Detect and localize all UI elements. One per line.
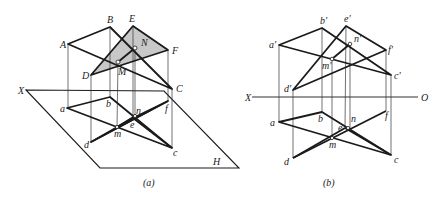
label-X-a: X: [17, 85, 25, 96]
label-N: N: [140, 37, 149, 48]
label-e-prime: e': [344, 13, 351, 24]
label-B: B: [107, 14, 113, 25]
label-a: a: [60, 103, 65, 114]
label-c-prime: c': [394, 70, 401, 81]
caption-a: (a): [143, 177, 155, 189]
label-X-b: X: [244, 92, 252, 103]
label-c-top: c: [394, 154, 399, 165]
figure-b: X O a' b' e' n' f' m' c' d' a b e n f m …: [244, 13, 428, 189]
figure-a: A B E N F M D C X a b n e f m d c H (a): [17, 13, 239, 189]
point-n-front: [348, 42, 352, 46]
label-d: d: [84, 139, 90, 150]
diagram-canvas: A B E N F M D C X a b n e f m d c H (a): [0, 0, 438, 201]
label-d-top: d: [284, 156, 290, 167]
segment-ec-top: [345, 128, 391, 155]
label-d-prime: d': [284, 83, 292, 94]
label-a-top: a: [270, 117, 275, 128]
label-f-top: f: [385, 110, 389, 121]
triangle-def-front: [293, 26, 386, 90]
label-D: D: [81, 70, 90, 81]
label-m-top: m: [329, 139, 336, 150]
label-f: f: [165, 103, 169, 114]
caption-b: (b): [323, 177, 335, 189]
label-b-top: b: [318, 113, 323, 124]
label-A: A: [59, 39, 67, 50]
label-O-b: O: [421, 92, 428, 103]
label-m: m: [114, 128, 121, 139]
label-c: c: [173, 147, 178, 158]
label-f-prime: f': [388, 44, 394, 55]
label-n: n: [136, 105, 141, 116]
point-m-space: [116, 60, 120, 64]
label-C: C: [176, 83, 183, 94]
label-e: e: [130, 119, 135, 130]
label-E: E: [128, 13, 135, 24]
point-n-space: [133, 46, 137, 50]
label-a-prime: a': [269, 39, 277, 50]
shaded-triangle-def: [91, 26, 168, 75]
label-H: H: [212, 156, 221, 167]
segment-mn-front: [332, 44, 350, 59]
label-e-top: e: [338, 122, 343, 133]
point-n-top: [346, 126, 349, 129]
label-m-prime: m': [322, 60, 332, 71]
label-b: b: [106, 98, 111, 109]
label-n-top: n: [351, 113, 356, 124]
label-F: F: [171, 45, 179, 56]
triangle-abc-front: [279, 28, 391, 75]
label-M: M: [117, 66, 127, 77]
label-n-prime: n': [354, 33, 362, 44]
triangle-abc-projection: [67, 97, 172, 148]
segment-ec-projection: [133, 118, 172, 148]
label-b-prime: b': [320, 15, 328, 26]
